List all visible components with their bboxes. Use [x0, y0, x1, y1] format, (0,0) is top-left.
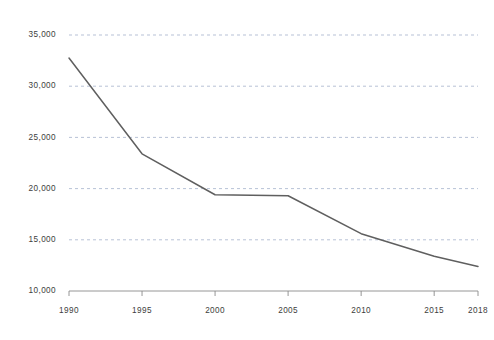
y-axis-tick-label: 15,000: [29, 235, 56, 244]
x-axis-tick-label: 2000: [205, 306, 225, 315]
chart-canvas: 10,00015,00020,00025,00030,00035,000 199…: [0, 0, 494, 340]
x-axis-tick-label: 2015: [424, 306, 444, 315]
x-axis-tick-labels: 1990199520002005201020152018: [59, 306, 488, 315]
x-axis-tick-label: 2005: [278, 306, 298, 315]
y-axis-tick-label: 25,000: [29, 133, 56, 142]
x-axis-tick-label: 2018: [468, 306, 488, 315]
x-axis-tick-marks: [69, 291, 478, 296]
x-axis-tick-label: 1995: [132, 306, 152, 315]
y-axis-tick-label: 35,000: [29, 30, 56, 39]
y-axis-tick-labels: 10,00015,00020,00025,00030,00035,000: [29, 30, 56, 295]
y-axis-tick-label: 30,000: [29, 81, 56, 90]
line-chart: 10,00015,00020,00025,00030,00035,000 199…: [0, 0, 494, 340]
y-axis-tick-label: 20,000: [29, 184, 56, 193]
x-axis-tick-label: 2010: [351, 306, 371, 315]
y-axis-tick-label: 10,000: [29, 286, 56, 295]
data-series-line: [69, 58, 478, 266]
x-axis-tick-label: 1990: [59, 306, 79, 315]
